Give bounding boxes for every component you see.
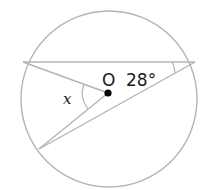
angle-label-28: 28°: [126, 70, 156, 90]
circle-diagram: O 28° x: [0, 0, 212, 190]
angle-arc-28: [172, 62, 175, 73]
angle-label-x: x: [63, 90, 72, 108]
angle-arc-x: [82, 84, 88, 109]
circle: [21, 11, 197, 187]
radius-to-left-endpoint: [23, 62, 108, 93]
center-dot: [104, 89, 111, 96]
radius-to-lower-point: [39, 93, 108, 149]
center-label: O: [102, 70, 115, 90]
